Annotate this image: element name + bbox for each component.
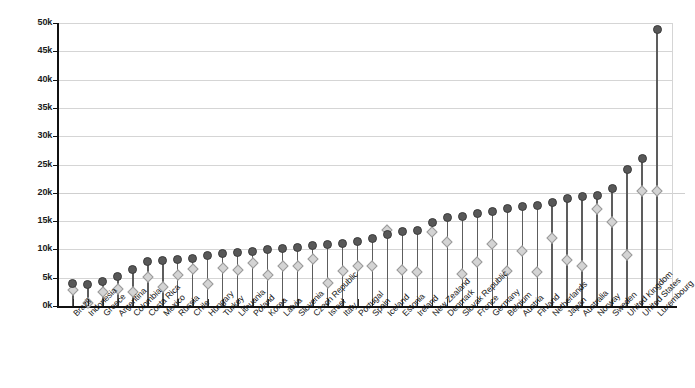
gridline bbox=[58, 249, 672, 250]
data-point-circle[interactable] bbox=[158, 256, 167, 265]
data-point-circle[interactable] bbox=[548, 198, 557, 207]
data-point-diamond[interactable] bbox=[247, 257, 258, 268]
gridline bbox=[58, 51, 672, 52]
data-point-stem bbox=[656, 30, 657, 306]
data-point-stem bbox=[551, 203, 552, 306]
y-axis-tick-label: 10k bbox=[14, 243, 52, 253]
gridline bbox=[58, 221, 672, 222]
data-point-circle[interactable] bbox=[128, 265, 137, 274]
data-point-diamond[interactable] bbox=[142, 271, 153, 282]
y-axis-tick-label: 25k bbox=[14, 159, 52, 169]
data-point-circle[interactable] bbox=[428, 218, 437, 227]
data-point-circle[interactable] bbox=[113, 272, 122, 281]
data-point-circle[interactable] bbox=[608, 184, 617, 193]
y-axis-tick-label: 0k bbox=[14, 300, 52, 310]
data-point-diamond[interactable] bbox=[472, 256, 483, 267]
data-point-circle[interactable] bbox=[233, 248, 242, 257]
data-point-circle[interactable] bbox=[308, 241, 317, 250]
data-point-diamond[interactable] bbox=[442, 236, 453, 247]
data-point-circle[interactable] bbox=[638, 154, 647, 163]
data-point-circle[interactable] bbox=[203, 251, 212, 260]
data-point-circle[interactable] bbox=[473, 209, 482, 218]
data-point-circle[interactable] bbox=[338, 239, 347, 248]
data-point-diamond[interactable] bbox=[576, 260, 587, 271]
data-point-circle[interactable] bbox=[488, 207, 497, 216]
data-point-diamond[interactable] bbox=[591, 204, 602, 215]
data-point-diamond[interactable] bbox=[187, 264, 198, 275]
data-point-circle[interactable] bbox=[593, 191, 602, 200]
data-point-circle[interactable] bbox=[83, 280, 92, 289]
data-point-diamond[interactable] bbox=[232, 265, 243, 276]
data-point-circle[interactable] bbox=[263, 245, 272, 254]
data-point-circle[interactable] bbox=[458, 212, 467, 221]
data-point-circle[interactable] bbox=[653, 25, 662, 34]
gridline bbox=[58, 108, 672, 109]
data-point-diamond[interactable] bbox=[532, 266, 543, 277]
data-point-stem bbox=[566, 198, 567, 306]
gridline bbox=[58, 80, 672, 81]
data-point-circle[interactable] bbox=[533, 201, 542, 210]
data-point-diamond[interactable] bbox=[651, 185, 662, 196]
data-point-circle[interactable] bbox=[323, 240, 332, 249]
data-point-circle[interactable] bbox=[518, 202, 527, 211]
gridline bbox=[58, 136, 672, 137]
data-point-circle[interactable] bbox=[383, 230, 392, 239]
y-axis-tick-label: 40k bbox=[14, 74, 52, 84]
data-point-circle[interactable] bbox=[173, 255, 182, 264]
y-axis-tick-label: 5k bbox=[14, 272, 52, 282]
data-point-diamond[interactable] bbox=[561, 254, 572, 265]
data-point-stem bbox=[537, 206, 538, 306]
data-point-circle[interactable] bbox=[443, 213, 452, 222]
data-point-diamond[interactable] bbox=[487, 238, 498, 249]
data-point-stem bbox=[611, 188, 612, 306]
data-point-circle[interactable] bbox=[503, 204, 512, 213]
y-axis-line bbox=[57, 23, 59, 308]
y-axis-tick-label: 15k bbox=[14, 215, 52, 225]
data-point-circle[interactable] bbox=[413, 226, 422, 235]
y-axis-tick-label: 20k bbox=[14, 187, 52, 197]
data-point-stem bbox=[641, 159, 642, 306]
data-point-circle[interactable] bbox=[98, 277, 107, 286]
data-point-diamond[interactable] bbox=[397, 265, 408, 276]
data-point-circle[interactable] bbox=[578, 192, 587, 201]
data-point-diamond[interactable] bbox=[292, 260, 303, 271]
data-point-diamond[interactable] bbox=[547, 232, 558, 243]
y-axis-tick-label: 45k bbox=[14, 45, 52, 55]
data-point-circle[interactable] bbox=[188, 254, 197, 263]
x-axis-tick-mark bbox=[358, 299, 359, 306]
data-point-circle[interactable] bbox=[353, 237, 362, 246]
x-axis-tick-mark bbox=[73, 299, 74, 306]
data-point-diamond[interactable] bbox=[172, 270, 183, 281]
data-point-circle[interactable] bbox=[248, 247, 257, 256]
y-axis-tick-label: 50k bbox=[14, 17, 52, 27]
data-point-diamond[interactable] bbox=[322, 278, 333, 289]
data-point-circle[interactable] bbox=[278, 244, 287, 253]
data-point-diamond[interactable] bbox=[307, 253, 318, 264]
data-point-diamond[interactable] bbox=[412, 266, 423, 277]
data-point-circle[interactable] bbox=[293, 243, 302, 252]
data-point-circle[interactable] bbox=[368, 234, 377, 243]
data-point-stem bbox=[387, 230, 388, 306]
y-axis-tick-label: 30k bbox=[14, 130, 52, 140]
data-point-diamond[interactable] bbox=[217, 262, 228, 273]
data-point-circle[interactable] bbox=[218, 249, 227, 258]
data-point-diamond[interactable] bbox=[277, 261, 288, 272]
data-point-diamond[interactable] bbox=[621, 249, 632, 260]
gridline bbox=[58, 23, 672, 24]
gridline bbox=[58, 193, 685, 194]
data-point-diamond[interactable] bbox=[636, 185, 647, 196]
data-point-stem bbox=[626, 169, 627, 306]
data-point-diamond[interactable] bbox=[606, 216, 617, 227]
data-point-circle[interactable] bbox=[623, 165, 632, 174]
plot-right-border bbox=[672, 23, 673, 306]
y-axis-tick-label: 35k bbox=[14, 102, 52, 112]
data-point-diamond[interactable] bbox=[202, 279, 213, 290]
gridline bbox=[58, 165, 672, 166]
data-point-circle[interactable] bbox=[563, 194, 572, 203]
data-point-diamond[interactable] bbox=[517, 245, 528, 256]
data-point-circle[interactable] bbox=[398, 227, 407, 236]
data-point-diamond[interactable] bbox=[427, 226, 438, 237]
data-point-diamond[interactable] bbox=[367, 260, 378, 271]
data-point-circle[interactable] bbox=[143, 257, 152, 266]
